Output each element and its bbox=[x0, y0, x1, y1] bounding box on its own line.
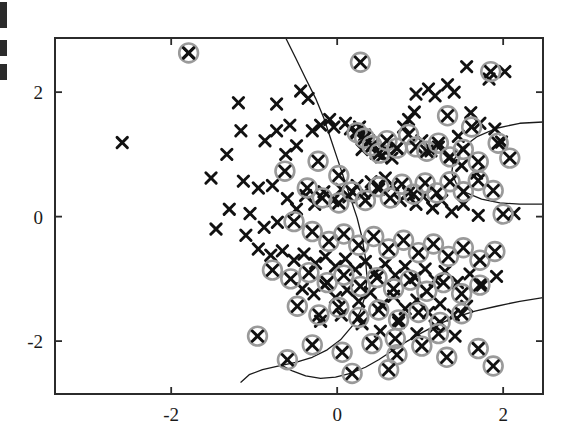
scatter-plot-figure: -202 20-2 bbox=[0, 0, 566, 444]
cropped-text-fragment bbox=[0, 64, 7, 80]
plot-canvas: -202 20-2 bbox=[0, 0, 566, 444]
y-tick-label: -2 bbox=[27, 331, 43, 352]
x-tick-label: 0 bbox=[332, 404, 342, 425]
cropped-text-fragment bbox=[0, 40, 7, 56]
y-tick-label: 2 bbox=[34, 82, 44, 103]
y-tick-label: 0 bbox=[34, 207, 44, 228]
figure-background bbox=[0, 0, 566, 444]
cropped-text-fragment bbox=[0, 2, 7, 28]
x-tick-label: 2 bbox=[498, 404, 508, 425]
x-tick-label: -2 bbox=[163, 404, 179, 425]
